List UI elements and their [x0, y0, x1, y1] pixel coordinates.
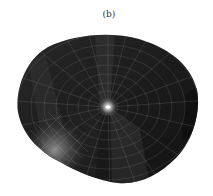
surface-mesh-render: [0, 0, 213, 196]
